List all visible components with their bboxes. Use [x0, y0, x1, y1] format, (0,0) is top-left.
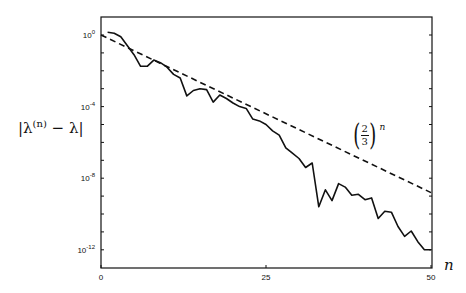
y-axis-label: |λ(n) − λ|	[18, 118, 83, 137]
exponent: n	[379, 122, 385, 132]
y-tick-label: 100	[83, 29, 96, 40]
left-paren: (	[353, 120, 360, 150]
tick-labels: 0255010010-410-810-12	[77, 29, 436, 282]
x-axis-label: n	[444, 256, 454, 274]
chart: 0255010010-410-810-12	[0, 0, 466, 293]
y-tick-label: 10-12	[77, 244, 95, 255]
right-paren: )	[369, 120, 376, 150]
fraction-numerator: 2	[362, 124, 368, 134]
x-tick-label: 25	[262, 273, 271, 282]
fraction: 2 3	[361, 124, 369, 147]
y-tick-label: 10-4	[81, 101, 96, 112]
fraction-denominator: 3	[362, 137, 368, 147]
x-tick-label: 0	[99, 273, 104, 282]
annotation-two-thirds-power: ( 2 3 ) n	[351, 120, 385, 150]
y-tick-label: 10-8	[81, 172, 96, 183]
x-tick-label: 50	[427, 273, 436, 282]
axis-ticks	[101, 35, 432, 268]
reference-line-two-thirds-power	[101, 35, 431, 193]
